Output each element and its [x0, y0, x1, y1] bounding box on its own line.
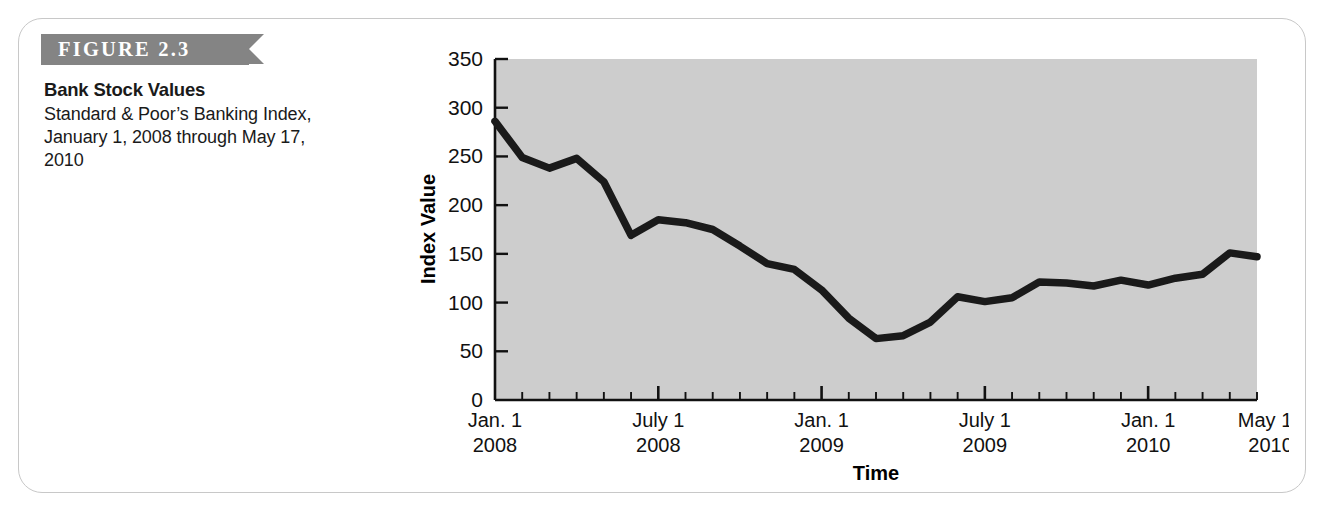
y-tick-label: 350 [448, 47, 483, 70]
y-tick-label: 250 [448, 144, 483, 167]
x-tick-label-date: May 17 [1238, 409, 1289, 431]
x-tick-label-year: 2010 [1126, 434, 1171, 456]
x-tick-label-date: July 1 [959, 409, 1011, 431]
x-axis-tick-labels: Jan. 12008July 12008Jan. 12009July 12009… [468, 409, 1289, 456]
x-tick-label-date: July 1 [632, 409, 684, 431]
figure-caption-block: FIGURE 2.3 Bank Stock Values Standard & … [41, 34, 371, 172]
figure-subtitle: Standard & Poor’s Banking Index, January… [41, 103, 344, 172]
x-tick-label-year: 2008 [636, 434, 681, 456]
y-tick-label: 0 [471, 388, 483, 411]
y-tick-label: 50 [460, 339, 483, 362]
x-axis-title: Time [853, 462, 899, 484]
figure-number-banner: FIGURE 2.3 [41, 34, 249, 65]
y-tick-label: 200 [448, 193, 483, 216]
chart-svg: 050100150200250300350 Jan. 12008July 120… [409, 31, 1289, 491]
y-tick-label: 300 [448, 96, 483, 119]
x-tick-label-year: 2009 [963, 434, 1008, 456]
x-tick-label-date: Jan. 1 [1121, 409, 1175, 431]
line-chart: 050100150200250300350 Jan. 12008July 120… [409, 31, 1289, 491]
x-tick-label-year: 2008 [473, 434, 518, 456]
x-tick-label-year: 2010 [1248, 434, 1289, 456]
y-tick-label: 150 [448, 242, 483, 265]
y-axis-title: Index Value [417, 174, 439, 284]
y-tick-label: 100 [448, 291, 483, 314]
figure-title: Bank Stock Values [41, 79, 371, 101]
figure-card: FIGURE 2.3 Bank Stock Values Standard & … [18, 18, 1306, 493]
x-tick-label-year: 2009 [799, 434, 844, 456]
y-axis-tick-labels: 050100150200250300350 [448, 47, 483, 411]
x-tick-label-date: Jan. 1 [468, 409, 522, 431]
x-tick-label-date: Jan. 1 [794, 409, 848, 431]
plot-background [495, 59, 1257, 400]
